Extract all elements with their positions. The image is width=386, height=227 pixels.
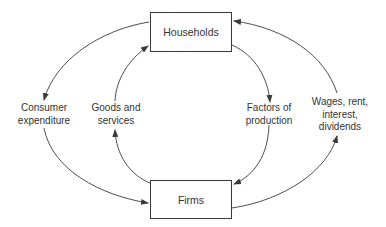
- households-node: Households: [150, 12, 232, 52]
- factors-production-arrow-bottom: [234, 125, 269, 184]
- factors-production-arrow-top: [232, 45, 270, 102]
- goods-services-arrow-bottom: [115, 130, 150, 183]
- consumer-expenditure-arrow-bottom: [44, 128, 148, 203]
- wages-arrow-bottom: [232, 136, 337, 208]
- consumer-expenditure-arrow-top: [44, 22, 149, 100]
- firms-node: Firms: [150, 180, 232, 219]
- consumer-expenditure-label: Consumer expenditure: [2, 102, 86, 127]
- goods-services-label: Goods and services: [84, 102, 148, 127]
- circular-flow-diagram: Households Firms Consumer expenditure Go…: [0, 0, 386, 227]
- households-label: Households: [163, 26, 218, 38]
- goods-services-arrow-top: [115, 46, 148, 101]
- wages-label: Wages, rent, interest, dividends: [302, 96, 378, 134]
- firms-label: Firms: [178, 194, 204, 206]
- factors-production-label: Factors of production: [236, 102, 302, 127]
